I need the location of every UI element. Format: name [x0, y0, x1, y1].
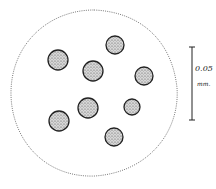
cell	[105, 128, 123, 146]
cell	[83, 61, 103, 81]
scale-bar	[189, 47, 195, 120]
scale-bar-unit: mm.	[197, 80, 210, 87]
cell	[78, 98, 98, 118]
cell	[48, 50, 68, 70]
scale-bar-value: 0.05	[195, 64, 213, 73]
cell	[124, 99, 140, 115]
colony-outline	[11, 10, 177, 176]
cell	[49, 111, 69, 131]
figure-canvas	[0, 0, 216, 189]
cell-group	[48, 36, 153, 146]
cell	[135, 67, 153, 85]
cell	[106, 36, 124, 54]
